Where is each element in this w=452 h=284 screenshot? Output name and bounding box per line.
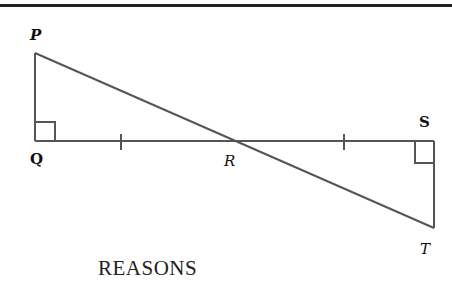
- point-label-p: P: [30, 26, 41, 44]
- triangle-diagram: [0, 0, 452, 284]
- point-label-r: R: [224, 152, 235, 170]
- right-angle-mark-s: [415, 141, 434, 163]
- point-label-t: T: [420, 240, 430, 258]
- point-label-s: S: [419, 113, 430, 131]
- right-angle-mark-q: [35, 122, 55, 141]
- point-label-q: Q: [30, 150, 43, 168]
- reasons-heading: REASONS: [98, 256, 197, 281]
